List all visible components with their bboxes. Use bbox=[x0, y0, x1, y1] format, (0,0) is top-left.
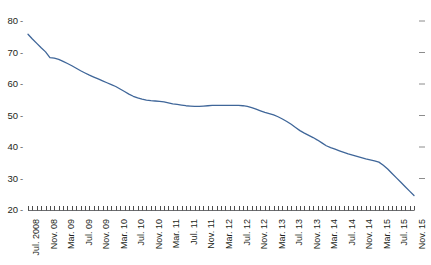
data-series-line bbox=[28, 34, 414, 195]
chart-canvas bbox=[0, 0, 431, 265]
right-axis-tick-marks bbox=[419, 21, 425, 179]
x-axis-tick-marks bbox=[29, 206, 415, 211]
plot-area bbox=[28, 21, 425, 211]
line-chart: 20-30-40-50-60-70-80- Jul. 2008Nov. 08Ma… bbox=[0, 0, 431, 265]
